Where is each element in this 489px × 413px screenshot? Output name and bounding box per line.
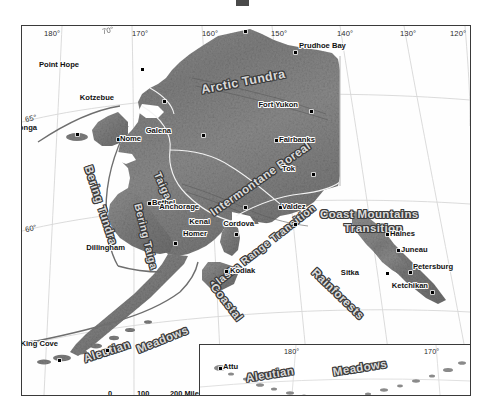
longitude-tick: 180° — [44, 29, 60, 38]
longitude-tick: 150° — [271, 29, 287, 38]
city-label-savoonga: Savoonga — [21, 123, 37, 132]
longitude-tick: 170° — [132, 29, 148, 38]
city-dot-icon — [106, 349, 109, 352]
longitude-tick: 140° — [337, 29, 353, 38]
city-label-cordova: Cordova — [223, 219, 254, 228]
city-label-attu: Attu — [223, 362, 238, 371]
city-dot-icon — [275, 139, 278, 142]
city-label-juneau: Juneau — [401, 245, 428, 254]
city-dot-icon — [386, 233, 389, 236]
city-dot-icon — [244, 206, 247, 209]
city-dot-icon — [58, 359, 61, 362]
city-dot-icon — [310, 110, 313, 113]
city-label-kotzebue: Kotzebue — [80, 93, 114, 102]
aleutian-inset-panel: 180° 170° AleutianMeadows AttuAdak — [199, 344, 471, 396]
city-label-kenai: Kenai — [189, 217, 210, 226]
city-label-dillingham: Dillingham — [86, 243, 125, 252]
city-label-fairbanks: Fairbanks — [279, 135, 315, 144]
city-label-fort-yukon: Fort Yukon — [258, 100, 298, 109]
city-label-prudhoe-bay: Prudhoe Bay — [299, 41, 346, 50]
city-label-haines: Haines — [390, 229, 415, 238]
ecoregion-label-coast-mountains: Coast Mountains — [320, 208, 419, 220]
inset-longitude-tick: 180° — [284, 347, 299, 356]
alaska-ecoregion-map: 180° 70° 170° 160° 150° 140° 130° 120° 6… — [0, 0, 489, 413]
city-dot-icon — [235, 233, 238, 236]
city-dot-icon — [294, 223, 297, 226]
city-dot-icon — [225, 270, 228, 273]
city-dot-icon — [294, 51, 297, 54]
city-dot-icon — [386, 272, 389, 275]
city-dot-icon — [219, 367, 222, 370]
city-dot-icon — [409, 271, 412, 274]
city-label-barrow: Barrow — [214, 25, 240, 28]
city-dot-icon — [148, 202, 151, 205]
longitude-tick: 120° — [450, 29, 466, 38]
cropped-title-remnant — [236, 0, 249, 6]
main-map-panel: 180° 70° 170° 160° 150° 140° 130° 120° 6… — [21, 25, 471, 396]
city-label-tok: Tok — [282, 164, 295, 173]
city-dot-icon — [244, 30, 247, 33]
inset-longitude-tick: 170° — [424, 347, 439, 356]
city-dot-icon — [163, 100, 166, 103]
scale-label-100: 100 — [137, 389, 149, 396]
city-label-valdez: Valdez — [282, 202, 306, 211]
city-dot-icon — [312, 173, 315, 176]
city-label-kodiak: Kodiak — [230, 266, 255, 275]
city-label-homer: Homer — [183, 229, 207, 238]
city-dot-icon — [431, 291, 434, 294]
city-dot-icon — [202, 134, 205, 137]
city-label-king-cove: King Cove — [21, 339, 58, 348]
city-label-petersburg: Petersburg — [413, 262, 453, 271]
city-dot-icon — [397, 249, 400, 252]
longitude-tick: 130° — [400, 29, 416, 38]
city-dot-icon — [141, 68, 144, 71]
city-label-galena: Galena — [146, 126, 171, 135]
scale-label-200: 200 Miles — [170, 389, 203, 396]
city-dot-icon — [174, 242, 177, 245]
city-label-point-hope: Point Hope — [39, 60, 79, 69]
city-label-ketchikan: Ketchikan — [392, 281, 428, 290]
city-label-nome: Nome — [120, 134, 141, 143]
scale-label-0: 0 — [108, 389, 112, 396]
city-dot-icon — [76, 133, 79, 136]
longitude-tick: 160° — [202, 29, 218, 38]
city-label-anchorage: Anchorage — [159, 202, 199, 211]
city-label-sitka: Sitka — [341, 268, 359, 277]
